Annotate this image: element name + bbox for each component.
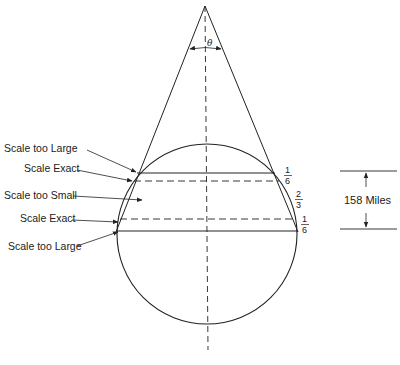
label-top-scale-too-large: Scale too Large	[4, 142, 78, 154]
theta-label: θ	[207, 38, 213, 48]
leader-bottom-scale-too-large	[77, 232, 118, 246]
leader-top-scale-too-large	[87, 150, 136, 172]
fraction-lower: 1 6	[301, 214, 309, 235]
dimension-label: 158 Miles	[344, 194, 392, 206]
dimension-158-miles: 158 Miles	[340, 171, 397, 229]
svg-text:1: 1	[285, 165, 290, 175]
fraction-middle: 2 3	[295, 189, 303, 210]
svg-text:6: 6	[285, 176, 290, 186]
leader-top-scale-exact	[77, 170, 132, 181]
svg-text:1: 1	[302, 214, 307, 224]
leader-bottom-scale-exact	[72, 220, 118, 222]
label-bottom-scale-exact: Scale Exact	[20, 212, 76, 224]
label-bottom-scale-too-large: Scale too Large	[8, 240, 82, 252]
label-top-scale-exact: Scale Exact	[24, 162, 80, 174]
svg-text:3: 3	[296, 200, 301, 210]
cone-left-edge	[116, 6, 205, 232]
globe-circle	[117, 144, 297, 324]
central-axis	[205, 6, 208, 350]
svg-text:6: 6	[302, 225, 307, 235]
svg-text:2: 2	[296, 189, 301, 199]
leader-scale-too-small	[73, 196, 142, 200]
secant-cone-diagram: θ Scale too Large Scale Exact Scale too …	[0, 0, 400, 365]
fraction-upper: 1 6	[284, 165, 292, 186]
label-scale-too-small: Scale too Small	[4, 189, 77, 201]
cone-right-edge	[205, 6, 298, 232]
